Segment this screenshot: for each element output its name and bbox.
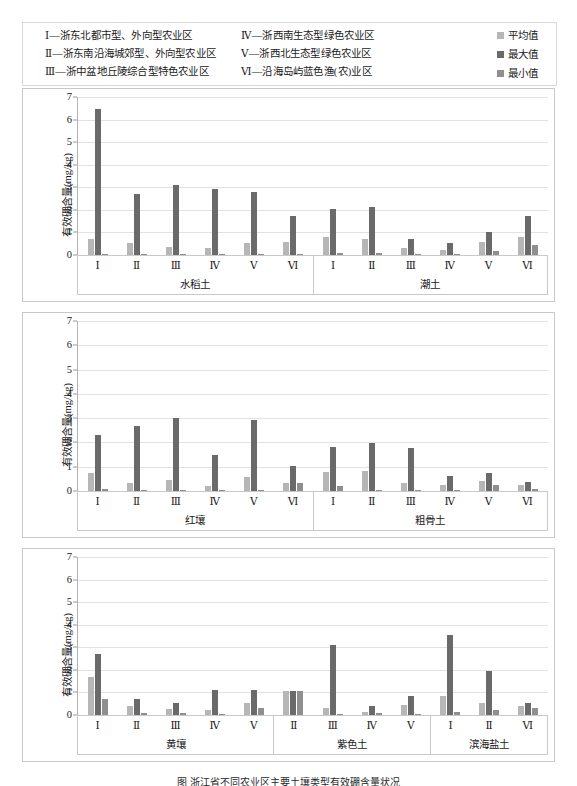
bar-groups: [78, 321, 548, 491]
x-axis-group-label: 黄壤: [78, 738, 273, 752]
bar-max: [525, 216, 531, 255]
y-axis-tick-label: 7: [67, 92, 72, 103]
x-axis-category-row: ⅡⅢⅣⅤ: [274, 719, 430, 733]
bar-mean: [362, 239, 368, 255]
x-axis-category-label: Ⅳ: [352, 719, 391, 733]
y-axis-tick-label: 0: [67, 250, 72, 261]
bar-cluster: [430, 321, 469, 491]
x-axis-category-label: Ⅵ: [273, 259, 312, 273]
x-axis-category-label: Ⅴ: [234, 495, 273, 509]
region-legend-item: Ⅲ—浙中盆地丘陵综合型特色农业区: [45, 63, 241, 81]
bar-cluster: [156, 321, 195, 491]
bar-max: [369, 443, 375, 491]
bar-group: [313, 97, 548, 255]
x-axis-category-label: Ⅲ: [156, 719, 195, 733]
x-axis-label-band: ⅠⅡⅢⅣⅤⅥ红壤ⅠⅡⅢⅣⅤⅥ粗骨土: [77, 491, 548, 531]
y-axis-tick-label: 1: [67, 461, 72, 472]
x-axis-category-label: Ⅰ: [431, 719, 470, 733]
bar-mean: [518, 706, 524, 715]
series-legend: 平均值 最大值 最小值: [497, 28, 538, 81]
x-axis-category-label: Ⅱ: [352, 495, 391, 509]
x-axis-group: ⅠⅡⅥ滨海盐土: [430, 715, 548, 755]
chart-panel-3: 有效硼含量(mg/kg)76543210ⅠⅡⅢⅣⅤ黄壤ⅡⅢⅣⅤ紫色土ⅠⅡⅥ滨海盐…: [22, 548, 555, 762]
y-axis-tick-label: 6: [67, 114, 72, 125]
bar-cluster: [78, 97, 117, 255]
bar-mean: [88, 239, 94, 255]
bar-max: [408, 239, 414, 255]
y-axis-tick-label: 5: [67, 137, 72, 148]
bar-group: [274, 557, 431, 715]
bar-mean: [127, 243, 133, 255]
x-axis-category-label: Ⅰ: [78, 495, 117, 509]
plot-canvas: [77, 557, 548, 715]
y-axis-tick-label: 7: [67, 552, 72, 563]
x-axis-category-row: ⅠⅡⅢⅣⅤ: [78, 719, 273, 733]
x-axis-category-label: Ⅴ: [469, 495, 508, 509]
bar-mean: [244, 477, 250, 491]
bar-max: [134, 699, 140, 715]
x-axis-category-label: Ⅵ: [508, 259, 547, 273]
x-axis-group: ⅠⅡⅢⅣⅤⅥ粗骨土: [313, 491, 549, 531]
bar-cluster: [352, 321, 391, 491]
y-axis-tick-label: 6: [67, 340, 72, 351]
x-axis-category-label: Ⅰ: [314, 259, 353, 273]
bar-mean: [244, 243, 250, 255]
bar-cluster: [509, 97, 548, 255]
bar-group: [78, 321, 313, 491]
bar-cluster: [391, 321, 430, 491]
x-axis-category-label: Ⅲ: [156, 259, 195, 273]
bar-mean: [479, 242, 485, 255]
y-axis-tick-label: 3: [67, 182, 72, 193]
bar-cluster: [235, 97, 274, 255]
y-axis-tick-label: 6: [67, 574, 72, 585]
bar-max: [525, 482, 531, 491]
x-axis-category-label: Ⅴ: [234, 259, 273, 273]
x-axis-group: ⅡⅢⅣⅤ紫色土: [273, 715, 430, 755]
bar-max: [330, 645, 336, 715]
chart-panel-1: 有效硼含量(mg/kg)76543210ⅠⅡⅢⅣⅤⅥ水稻土ⅠⅡⅢⅣⅤⅥ潮土: [22, 88, 555, 302]
bar-mean: [479, 481, 485, 491]
bar-group: [313, 321, 548, 491]
bar-mean: [166, 247, 172, 255]
y-axis-tick-label: 1: [67, 227, 72, 238]
x-axis-category-label: Ⅵ: [273, 495, 312, 509]
y-axis-tick-label: 3: [67, 413, 72, 424]
y-axis-tick-label: 0: [67, 486, 72, 497]
bar-mean: [401, 705, 407, 715]
x-axis-category-label: Ⅳ: [195, 259, 234, 273]
x-axis-category-label: Ⅲ: [313, 719, 352, 733]
bar-max: [134, 194, 140, 255]
x-axis-label-band: ⅠⅡⅢⅣⅤⅥ水稻土ⅠⅡⅢⅣⅤⅥ潮土: [77, 255, 548, 295]
bar-max: [486, 232, 492, 255]
x-axis-category-label: Ⅱ: [117, 719, 156, 733]
bar-group: [78, 97, 313, 255]
bar-cluster: [117, 557, 156, 715]
bar-max: [486, 473, 492, 491]
y-axis-tick-label: 1: [67, 687, 72, 698]
bar-cluster: [78, 321, 117, 491]
x-axis-category-label: Ⅱ: [117, 495, 156, 509]
bar-mean: [88, 473, 94, 491]
y-axis-tick-label: 2: [67, 437, 72, 448]
series-legend-label: 平均值: [508, 28, 538, 43]
bar-group: [430, 557, 548, 715]
x-axis-category-label: Ⅱ: [117, 259, 156, 273]
x-axis-group-label: 水稻土: [78, 278, 313, 292]
bar-cluster: [235, 321, 274, 491]
bar-mean: [323, 472, 329, 491]
bar-mean: [479, 703, 485, 715]
plot-area: 76543210: [59, 321, 548, 491]
y-axis-tick-label: 0: [67, 710, 72, 721]
bar-max: [173, 703, 179, 715]
region-legend-item: Ⅳ—浙西南生态型绿色农业区: [241, 27, 411, 45]
bar-groups: [78, 557, 548, 715]
x-axis-group-label: 粗骨土: [314, 514, 548, 528]
series-legend-label: 最小值: [508, 66, 538, 81]
bar-cluster: [195, 97, 234, 255]
x-axis-category-row: ⅠⅡⅢⅣⅤⅥ: [314, 495, 548, 509]
plot-canvas: [77, 97, 548, 255]
bar-cluster: [195, 321, 234, 491]
x-axis-category-label: Ⅳ: [195, 719, 234, 733]
plot-area: 76543210: [59, 97, 548, 255]
bar-mean: [127, 483, 133, 491]
